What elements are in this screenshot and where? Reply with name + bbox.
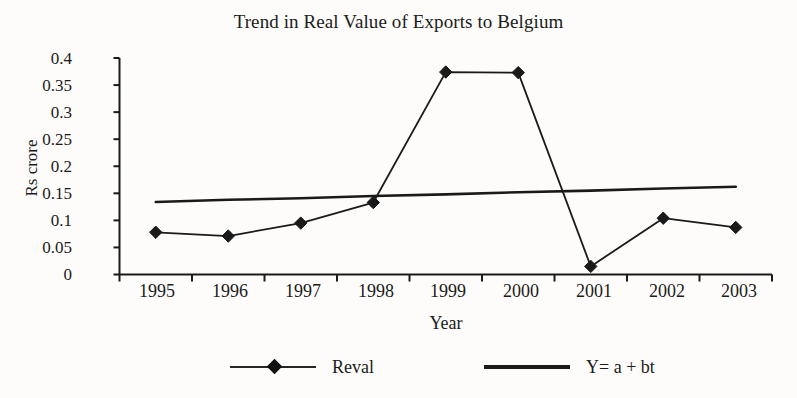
legend-entry-reval: Reval bbox=[230, 352, 374, 382]
axis-lines bbox=[119, 58, 772, 275]
chart-legend: Reval Y= a + bt bbox=[0, 352, 797, 384]
legend-swatch-line-diamond-icon bbox=[230, 357, 316, 377]
series-trend-line bbox=[156, 187, 736, 202]
legend-label: Y= a + bt bbox=[586, 357, 655, 378]
series-reval-markers bbox=[150, 66, 742, 273]
chart-figure: Trend in Real Value of Exports to Belgiu… bbox=[0, 0, 797, 398]
legend-swatch-thick-line-icon bbox=[484, 357, 570, 377]
legend-label: Reval bbox=[332, 357, 374, 378]
series-reval-line bbox=[156, 72, 736, 266]
plot-area bbox=[0, 0, 797, 398]
legend-entry-trend: Y= a + bt bbox=[484, 352, 655, 382]
x-axis-ticks bbox=[120, 275, 773, 282]
